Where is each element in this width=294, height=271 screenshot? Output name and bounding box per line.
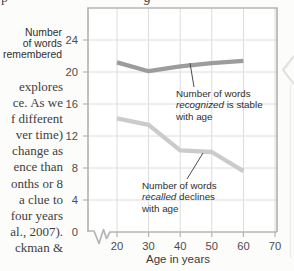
annotation-line: with age xyxy=(176,111,263,122)
textbook-page-crop: p g exploresce. As wef differentver time… xyxy=(0,0,294,271)
annotation-line: Number of words xyxy=(176,88,263,99)
x-tick-label: 60 xyxy=(237,240,249,252)
y-tick-label: 0 xyxy=(72,226,78,238)
y-tick-label: 4 xyxy=(72,194,78,206)
y-tick-label: 16 xyxy=(66,98,78,110)
annotation-line: recognized is stable xyxy=(176,99,263,110)
annotation-recognized: Number of words recognized is stable wit… xyxy=(176,88,263,122)
page-edge-chevron xyxy=(283,56,294,84)
x-tick-label: 50 xyxy=(206,240,218,252)
line-chart: 20304050607004812162024 xyxy=(0,0,294,271)
x-tick-label: 40 xyxy=(174,240,186,252)
annotation-line: Number of words xyxy=(142,180,217,191)
annotation-line: recalled declines xyxy=(142,191,217,202)
y-tick-label: 8 xyxy=(72,162,78,174)
x-axis-title: Age in years xyxy=(146,253,210,265)
annotation-line: with age xyxy=(142,203,217,214)
y-tick-label: 20 xyxy=(66,66,78,78)
y-tick-label: 12 xyxy=(66,130,78,142)
y-tick-label: 24 xyxy=(66,34,78,46)
x-tick-label: 30 xyxy=(142,240,154,252)
annotation-recalled: Number of words recalled declines with a… xyxy=(142,180,217,214)
x-tick-label: 20 xyxy=(111,240,123,252)
x-tick-label: 70 xyxy=(269,240,281,252)
